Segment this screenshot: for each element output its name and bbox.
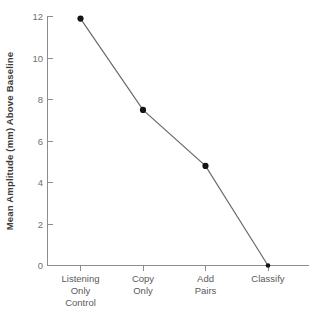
y-axis-title: Mean Amplitude (mm) Above Baseline [4, 52, 15, 231]
data-point [77, 15, 83, 21]
x-tick-label-1-line-1: Only [133, 285, 153, 296]
x-tick-label-1-line-0: Copy [132, 273, 154, 284]
y-tick-label-2: 2 [38, 219, 43, 230]
x-tick-label-0-line-1: Only [71, 285, 91, 296]
x-tick-label-2-line-1: Pairs [195, 285, 217, 296]
chart-figure: Mean Amplitude (mm) Above Baseline 12 10… [0, 0, 317, 309]
y-tick-label-10: 10 [32, 53, 43, 64]
data-point [266, 263, 271, 268]
x-tick-label-3-line-0: Classify [251, 273, 285, 284]
x-tick-label-2-line-0: Add [197, 273, 214, 284]
x-tick-label-0-line-2: Control [65, 297, 96, 308]
y-tick-label-4: 4 [38, 177, 43, 188]
y-tick-label-6: 6 [38, 136, 43, 147]
x-tick-label-0-line-0: Listening [61, 273, 99, 284]
y-tick-label-8: 8 [38, 94, 43, 105]
y-tick-label-12: 12 [32, 11, 43, 22]
data-series-markers [77, 15, 270, 267]
data-series-line [81, 19, 269, 266]
line-chart: Mean Amplitude (mm) Above Baseline 12 10… [0, 0, 317, 309]
data-point [202, 163, 208, 169]
y-tick-label-0: 0 [38, 260, 43, 271]
data-point [140, 107, 146, 113]
